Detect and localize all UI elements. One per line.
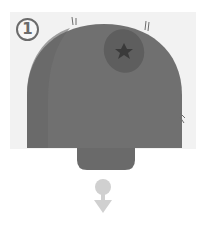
down-arrow-icon bbox=[94, 179, 112, 213]
step-number-badge: 1 bbox=[16, 18, 39, 41]
stem-shape bbox=[77, 148, 135, 170]
